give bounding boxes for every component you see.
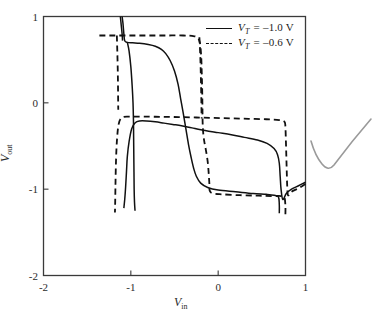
legend-value: –1.0 V [263, 21, 294, 33]
legend-line-sample-dashed [206, 39, 232, 49]
y-axis-title: Vout [0, 144, 14, 162]
x-tick-label: -2 [39, 281, 48, 293]
y-tick-label: -2 [20, 270, 38, 282]
x-tick-label: 1 [303, 281, 309, 293]
legend-value: –0.6 V [263, 36, 294, 48]
figure-background [0, 0, 378, 317]
legend-item-2: VT=–0.6 V [206, 36, 307, 51]
legend-subscript: T [245, 42, 250, 51]
chart-legend: VT=–1.0 VVT=–0.6 V [206, 21, 307, 51]
legend-equals: = [254, 36, 260, 48]
legend-label: VT=–1.0 V [238, 21, 294, 36]
y-axis-title-main: V [0, 155, 12, 162]
legend-line-sample-solid [206, 24, 232, 34]
x-tick-label: -1 [126, 281, 135, 293]
legend-equals: = [254, 21, 260, 33]
chart-figure [0, 0, 378, 317]
y-axis-title-sub: out [5, 144, 14, 154]
y-tick-label: 0 [20, 97, 38, 109]
y-tick-label: 1 [20, 11, 38, 23]
legend-item-1: VT=–1.0 V [206, 21, 307, 36]
legend-symbol: V [238, 21, 245, 33]
legend-symbol: V [238, 36, 245, 48]
x-axis-title: Vin [174, 295, 188, 311]
y-tick-label: -1 [20, 183, 38, 195]
x-tick-label: 0 [215, 281, 221, 293]
legend-label: VT=–0.6 V [238, 36, 294, 51]
legend-subscript: T [245, 27, 250, 36]
x-axis-title-sub: in [181, 302, 187, 311]
